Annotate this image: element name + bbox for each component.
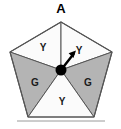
pentagon-diagram-svg: A Y Y G G Y bbox=[0, 0, 121, 129]
sector-label-left: G bbox=[31, 77, 39, 88]
sector-label-upper-right: Y bbox=[76, 45, 83, 56]
sector-label-right: G bbox=[84, 77, 92, 88]
sector-label-bottom: Y bbox=[59, 96, 66, 107]
center-dot bbox=[56, 65, 67, 76]
pentagon-figure: A Y Y G G Y bbox=[0, 0, 121, 129]
sector-label-upper-left: Y bbox=[40, 42, 47, 53]
apex-label: A bbox=[56, 1, 66, 16]
